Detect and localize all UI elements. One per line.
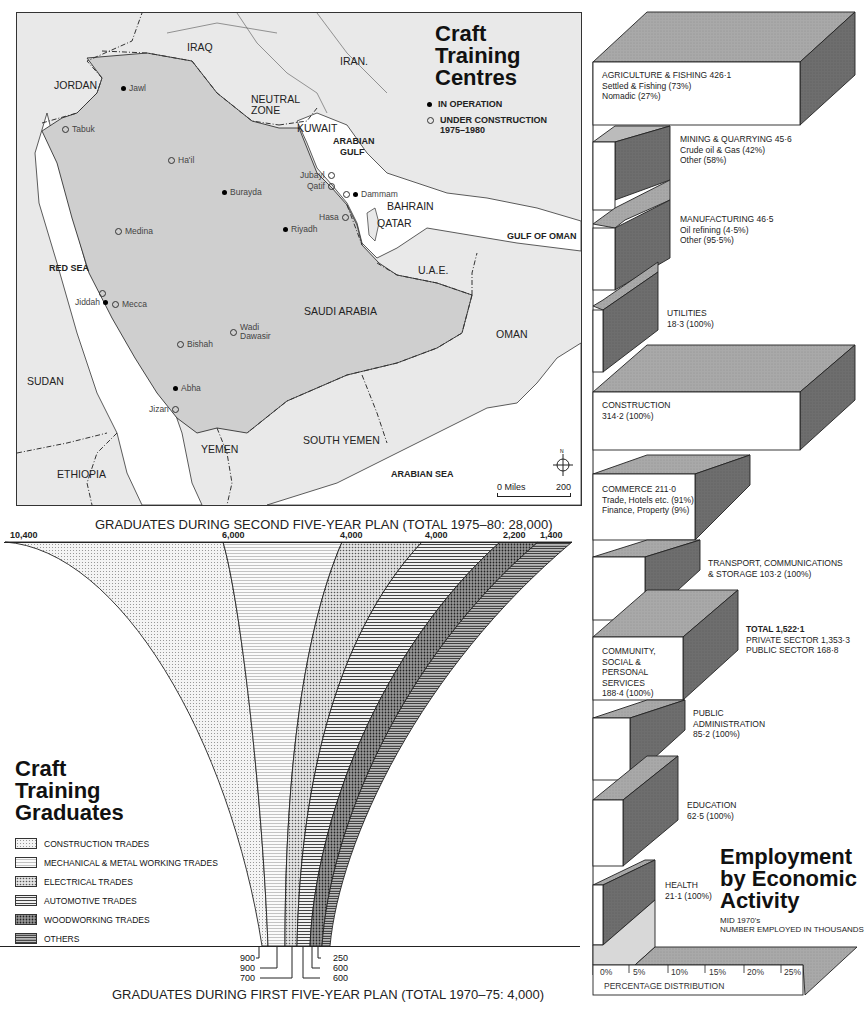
city-label: Abha [181,383,201,393]
first-plan-title: GRADUATES DURING FIRST FIVE-YEAR PLAN (T… [112,987,544,1002]
city-jiddah: Jiddah [75,297,108,307]
axis-tick-10: 10% [671,967,688,977]
employment-title-line-3: Activity [720,890,864,912]
city-label: Hasa [319,212,339,222]
city-abha: Abha [173,383,201,393]
axis-tick-5: 5% [633,967,645,977]
automotive-swatch-icon [15,895,37,906]
sector-detail-2: Nomadic (27%) [602,91,731,102]
under-construction-icon [343,191,350,198]
sector-detail-1: Crude oil & Gas (42%) [680,145,792,156]
sector-detail-3: SERVICES [602,678,656,689]
sector-manufacturing: MANUFACTURING 46·5Oil refining (4·5%)Oth… [680,214,774,246]
sector-detail-1: Settled & Fishing (73%) [602,81,731,92]
sector-detail-1: ADMINISTRATION [693,719,765,730]
scale-line [497,493,571,497]
city-label: Medina [125,226,153,236]
city-mecca: Mecca [112,299,147,309]
in-operation-icon [121,86,126,91]
scale-end-label: 200 [556,482,571,492]
mechanical-swatch-icon [15,857,37,868]
sector-health: HEALTH21·1 (100%) [665,880,712,901]
legend-construction: CONSTRUCTION TRADES [15,838,149,849]
total-label: TOTAL 1,522·1 [746,624,850,635]
label-arabian-gulf-2: GULF [340,147,365,157]
sector-detail-1: & STORAGE 103·2 (100%) [708,569,843,580]
legend-under-construction: UNDER CONSTRUCTION [427,115,547,125]
map-title-line-3: Centres [435,67,521,89]
city-dammam: Dammam [343,189,398,199]
city-label: Jiddah [75,297,100,307]
legend-label: ELECTRICAL TRADES [44,877,133,887]
city-tabuk: Tabuk [62,124,95,134]
sector-name: MINING & QUARRYING 45·6 [680,134,792,145]
label-arabian-sea: ARABIAN SEA [391,469,454,479]
legend-electrical: ELECTRICAL TRADES [15,876,133,887]
axis-tick-0: 0% [600,967,612,977]
label-gulf-of-oman: GULF OF OMAN [507,231,577,241]
top-axis-line [4,542,572,543]
sector-name: AGRICULTURE & FISHING 426·1 [602,70,731,81]
sector-detail-2: Other (95·5%) [680,235,774,246]
scale-start-label: 0 Miles [497,482,526,492]
open-circle-icon [427,117,434,124]
employment-total: TOTAL 1,522·1 PRIVATE SECTOR 1,353·3 PUB… [746,624,850,656]
city-label: Qatif [307,181,325,191]
city-label: Jubayl [300,170,325,180]
city-riyadh: Riyadh [283,224,317,234]
sector-name: COMMUNITY, [602,646,656,657]
city-jubayl: Jubayl [300,170,335,180]
label-ethiopia: ETHIOPIA [57,468,106,480]
sector-detail-2: Finance, Property (9%) [602,505,694,516]
in-operation-icon [283,227,288,232]
under-construction-icon [115,228,122,235]
sector-construction: CONSTRUCTION314·2 (100%) [602,400,670,421]
svg-text:N: N [560,448,564,454]
bottom-label-mechanical: 900 [240,963,255,973]
city-label: Mecca [122,299,147,309]
city-jawl: Jawl [121,83,146,93]
sector-detail-1: 18·3 (100%) [667,319,714,330]
legend-in-operation: IN OPERATION [427,99,547,109]
city-burayda: Burayda [222,187,262,197]
city-label: Jawl [129,83,146,93]
craft-training-centres-map: Craft Training Centres IN OPERATION UNDE… [16,12,582,506]
graduates-title-line-1: Craft [15,758,124,780]
bottom-label-others: 250 [333,953,348,963]
bottom-label-woodworking: 600 [333,963,348,973]
top-label-mechanical: 6,000 [222,530,245,540]
under-construction-icon [328,172,335,179]
in-operation-icon [103,300,108,305]
sector-mining: MINING & QUARRYING 45·6Crude oil & Gas (… [680,134,792,166]
city-label: Ha'il [178,155,194,165]
sector-detail-1: SOCIAL & [602,657,656,668]
label-uae: U.A.E. [418,264,448,276]
sector-name: HEALTH [665,880,712,891]
sector-detail-1: 21·1 (100%) [665,891,712,902]
map-title-line-2: Training [435,45,521,67]
legend-label: WOODWORKING TRADES [44,915,150,925]
map-title-line-1: Craft [435,23,521,45]
city-label-line-2: Dawasir [240,331,271,341]
graduates-title-line-3: Graduates [15,802,124,824]
legend-label: MECHANICAL & METAL WORKING TRADES [44,858,218,868]
bottom-label-automotive: 600 [333,973,348,983]
map-legend: IN OPERATION UNDER CONSTRUCTION 1975–198… [427,99,547,135]
city-medina: Medina [115,226,153,236]
sector-detail-1: Oil refining (4·5%) [680,225,774,236]
in-operation-icon [222,190,227,195]
label-red-sea: RED SEA [49,263,89,273]
sector-name: EDUCATION [687,800,736,811]
under-construction-icon [328,183,335,190]
legend-others: OTHERS [15,933,79,944]
employment-subtitle-1: MID 1970's [720,916,864,925]
filled-dot-icon [427,102,432,107]
legend-label: OTHERS [44,934,79,944]
under-construction-icon [112,301,119,308]
legend-woodworking: WOODWORKING TRADES [15,914,150,925]
sector-detail-4: 188·4 (100%) [602,688,656,699]
city-wadi-dawasir: WadiDawasir [230,323,271,341]
graduates-funnel-chart [0,540,580,950]
employment-title-line-1: Employment [720,846,864,868]
jiddah-under-construction-icon [99,290,106,297]
